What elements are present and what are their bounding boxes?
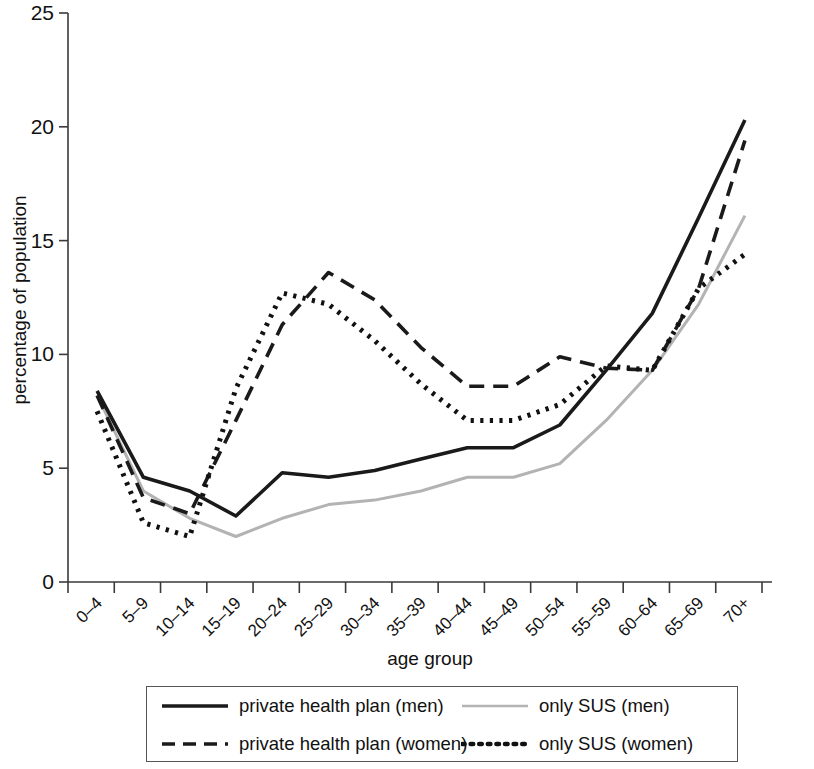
y-tick-label: 0 xyxy=(42,570,54,593)
legend-swatch-dotted xyxy=(461,737,529,751)
chart-container: 0510152025 0–45–910–1415–1920–2425–2930–… xyxy=(0,0,814,769)
legend-label: only SUS (men) xyxy=(539,695,670,717)
legend-item: private health plan (men) xyxy=(161,695,461,717)
legend-item: only SUS (women) xyxy=(461,733,741,755)
series-lines xyxy=(97,120,745,537)
legend-swatch-solid-light xyxy=(461,699,529,713)
x-tick-label: 70+ xyxy=(720,593,754,627)
x-tick-label: 15–19 xyxy=(198,593,245,640)
legend-item: only SUS (men) xyxy=(461,695,741,717)
legend-swatch-dashed xyxy=(161,737,229,751)
y-tick-label: 15 xyxy=(31,229,54,252)
y-axis-title: percentage of population xyxy=(9,195,30,404)
legend-label: only SUS (women) xyxy=(539,733,693,755)
x-tick-label: 35–39 xyxy=(383,593,430,640)
legend-label: private health plan (men) xyxy=(239,695,444,717)
x-tick-label: 45–49 xyxy=(476,593,523,640)
y-tick-label: 20 xyxy=(31,115,54,138)
x-tick-label: 65–69 xyxy=(661,593,708,640)
line-chart-plot: 0510152025 0–45–910–1415–1920–2425–2930–… xyxy=(0,0,814,769)
x-tick-label: 40–44 xyxy=(429,593,476,640)
legend-label: private health plan (women) xyxy=(239,733,467,755)
chart-legend: private health plan (men)only SUS (men)p… xyxy=(146,686,738,762)
y-tick-label: 5 xyxy=(42,456,54,479)
x-axis-tick-labels: 0–45–910–1415–1920–2425–2930–3435–3940–4… xyxy=(72,593,753,640)
x-tick-label: 0–4 xyxy=(72,593,105,626)
x-tick-label: 25–29 xyxy=(290,593,337,640)
y-axis-tick-labels: 0510152025 xyxy=(31,1,54,593)
x-tick-label: 20–24 xyxy=(244,593,291,640)
y-tick-label: 25 xyxy=(31,1,54,24)
series-line-private-health-plan-men xyxy=(97,120,745,516)
legend-item: private health plan (women) xyxy=(161,733,461,755)
x-tick-label: 10–14 xyxy=(152,593,199,640)
series-line-only-sus-men xyxy=(97,216,745,537)
legend-swatch-solid xyxy=(161,699,229,713)
x-axis-title: age group xyxy=(387,648,473,669)
x-tick-label: 55–59 xyxy=(568,593,615,640)
x-tick-label: 5–9 xyxy=(119,593,152,626)
y-tick-label: 10 xyxy=(31,342,54,365)
x-tick-label: 30–34 xyxy=(337,593,384,640)
x-tick-label: 50–54 xyxy=(522,593,569,640)
x-tick-label: 60–64 xyxy=(614,593,661,640)
